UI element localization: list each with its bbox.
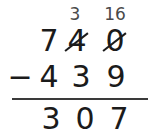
- minuend-ones-digit-crossed-out: 0: [98, 26, 132, 56]
- difference-tens-digit: 0: [70, 104, 100, 134]
- difference-hundreds-digit: 3: [36, 104, 66, 134]
- subtrahend-ones-digit: 9: [100, 62, 132, 92]
- borrow-digit-ones: 16: [96, 6, 134, 23]
- subtraction-worksheet: 3 16 7 4 0 − 4 3 9 3 0 7: [0, 0, 153, 140]
- difference-ones-digit: 7: [104, 104, 134, 134]
- answer-divider-line: [12, 98, 148, 100]
- borrow-digit-tens: 3: [60, 6, 90, 23]
- strikethrough-mark-ones: 0: [105, 26, 124, 56]
- minuend-tens-digit-crossed-out: 4: [62, 26, 92, 56]
- minus-operator-icon: −: [6, 62, 34, 92]
- subtrahend-tens-digit: 3: [66, 62, 96, 92]
- minuend-hundreds-digit: 7: [34, 26, 64, 56]
- subtrahend-hundreds-digit: 4: [34, 62, 64, 92]
- strikethrough-mark-tens: 4: [67, 26, 86, 56]
